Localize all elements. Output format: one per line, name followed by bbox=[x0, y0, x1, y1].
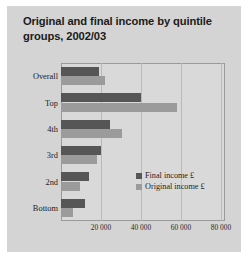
y-axis-label-bottom: Bottom bbox=[4, 203, 58, 212]
bar-top-final bbox=[61, 93, 141, 102]
gridline-80000 bbox=[221, 63, 222, 221]
bar-2nd-final bbox=[61, 172, 89, 181]
x-tick-label-20000: 20 000 bbox=[91, 223, 111, 232]
y-axis-label-overall: Overall bbox=[4, 72, 58, 81]
legend-label-original-income: Original income £ bbox=[145, 182, 205, 191]
chart-figure: Original and final income by quintile gr… bbox=[0, 0, 248, 268]
legend-item-final-income: Final income £ bbox=[136, 170, 205, 181]
x-tick-label-40000: 40 000 bbox=[131, 223, 151, 232]
y-axis-label-top: Top bbox=[4, 98, 58, 107]
legend-label-final-income: Final income £ bbox=[145, 171, 194, 180]
x-axis-tick-labels: 20 00040 00060 00080 000 bbox=[61, 223, 225, 237]
gridline-60000 bbox=[181, 63, 182, 221]
y-axis-category-labels: OverallTop4th3rd2ndBottom bbox=[2, 63, 58, 221]
bar-3rd-final bbox=[61, 146, 101, 155]
bar-3rd-original bbox=[61, 155, 97, 164]
legend-item-original-income: Original income £ bbox=[136, 181, 205, 192]
bar-bottom-original bbox=[61, 208, 73, 217]
bar-4th-final bbox=[61, 120, 110, 129]
gridline-40000 bbox=[141, 63, 142, 221]
legend-swatch-final-income bbox=[136, 173, 142, 179]
bar-overall-final bbox=[61, 67, 99, 76]
x-tick-label-80000: 80 000 bbox=[211, 223, 231, 232]
legend-swatch-original-income bbox=[136, 184, 142, 190]
y-axis-label-4th: 4th bbox=[4, 124, 58, 133]
bar-top-original bbox=[61, 103, 177, 112]
y-axis-label-3rd: 3rd bbox=[4, 151, 58, 160]
chart-legend: Final income £Original income £ bbox=[136, 170, 205, 192]
y-axis-label-2nd: 2nd bbox=[4, 177, 58, 186]
bar-overall-original bbox=[61, 76, 105, 85]
plot-area bbox=[61, 63, 225, 221]
bar-4th-original bbox=[61, 129, 122, 138]
gridline-20000 bbox=[101, 63, 102, 221]
x-tick-label-60000: 60 000 bbox=[171, 223, 191, 232]
bar-bottom-final bbox=[61, 199, 85, 208]
chart-title: Original and final income by quintile gr… bbox=[23, 14, 228, 44]
bar-2nd-original bbox=[61, 182, 80, 191]
